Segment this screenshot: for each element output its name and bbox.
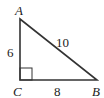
vertex-label-c: C bbox=[13, 84, 22, 98]
right-angle-marker bbox=[20, 68, 32, 80]
side-label-ac: 6 bbox=[7, 45, 14, 60]
vertex-label-a: A bbox=[14, 3, 23, 18]
triangle-diagram: A C B 6 8 10 bbox=[0, 0, 104, 98]
vertex-label-b: B bbox=[92, 84, 100, 98]
side-label-ab: 10 bbox=[56, 35, 69, 50]
side-label-cb: 8 bbox=[54, 84, 61, 98]
